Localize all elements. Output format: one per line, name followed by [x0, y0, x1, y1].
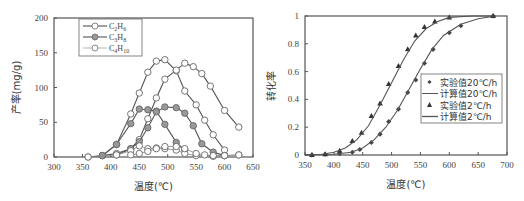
data-point: [236, 124, 242, 130]
legend-label: 实验值2℃/h: [440, 100, 492, 111]
y-axis-label: 转化率: [265, 71, 277, 101]
data-point: [162, 104, 168, 110]
legend-marker: [92, 34, 98, 40]
figure-canvas: 300350400450500550600650050100150200温度(℃…: [0, 0, 524, 201]
data-point: [173, 104, 179, 110]
y-tick-label: 200: [35, 13, 49, 23]
y-tick-label: 50: [39, 117, 49, 127]
data-point: [162, 121, 168, 127]
y-tick-label: 0.6: [288, 67, 300, 77]
data-point: [162, 76, 168, 82]
data-point: [145, 107, 151, 113]
y-tick-label: 1: [295, 11, 300, 21]
y-tick-label: 150: [35, 48, 49, 58]
x-axis-label: 温度(℃): [386, 178, 425, 190]
y-tick-label: 0: [295, 150, 300, 160]
data-point: [113, 152, 119, 158]
x-tick-label: 350: [76, 162, 90, 172]
x-tick-label: 300: [47, 162, 61, 172]
data-point: [190, 63, 196, 69]
legend: C2H6C3H8C4H10: [79, 19, 142, 56]
data-point: [136, 143, 142, 149]
data-point: [201, 152, 207, 158]
x-tick-label: 550: [414, 160, 428, 170]
x-tick-label: 450: [133, 162, 147, 172]
data-point: [199, 70, 205, 76]
x-tick-label: 500: [385, 160, 399, 170]
legend-marker: [92, 45, 98, 51]
y-tick-label: 0.2: [288, 122, 299, 132]
x-tick-label: 400: [327, 160, 341, 170]
data-point: [193, 150, 199, 156]
data-point: [128, 152, 134, 158]
series-line: [102, 109, 184, 156]
chart-yield: 300350400450500550600650050100150200温度(℃…: [10, 13, 260, 192]
legend-label: 实验值20℃/h: [440, 77, 497, 88]
x-tick-label: 350: [298, 160, 312, 170]
data-point: [221, 152, 227, 158]
data-point: [210, 152, 216, 158]
x-tick-label: 400: [104, 162, 118, 172]
legend-label: 计算值2℃/h: [440, 111, 492, 122]
data-point: [199, 141, 205, 147]
x-tick-label: 500: [161, 162, 175, 172]
data-point: [128, 111, 134, 117]
data-point: [190, 123, 196, 129]
data-point: [193, 102, 199, 108]
x-tick-label: 600: [443, 160, 457, 170]
data-point: [182, 60, 188, 66]
data-point: [85, 154, 91, 160]
data-point: [236, 152, 242, 158]
x-tick-label: 650: [246, 162, 260, 172]
x-tick-label: 700: [500, 160, 514, 170]
x-tick-label: 600: [218, 162, 232, 172]
data-point: [162, 143, 168, 149]
y-tick-label: 0.8: [288, 39, 300, 49]
legend: 实验值20℃/h计算值20℃/h实验值2℃/h计算值2℃/h: [421, 74, 502, 123]
legend-marker: [92, 23, 98, 29]
data-point: [350, 138, 356, 143]
x-tick-label: 650: [471, 160, 485, 170]
y-axis-label: 产率(mg/g): [10, 61, 22, 115]
data-point: [221, 107, 227, 113]
x-tick-label: 550: [189, 162, 203, 172]
y-tick-label: 0: [44, 152, 49, 162]
data-point: [182, 88, 188, 94]
data-point: [145, 69, 151, 75]
data-point: [136, 90, 142, 96]
data-point: [173, 143, 179, 149]
data-point: [153, 109, 159, 115]
data-point: [153, 145, 159, 151]
chart-conversion: 35040045050055060065070000.20.40.60.81温度…: [265, 11, 514, 190]
data-point: [162, 57, 168, 63]
data-point: [153, 95, 159, 101]
y-tick-label: 0.4: [288, 94, 300, 104]
data-point: [413, 32, 419, 37]
data-point: [173, 67, 179, 73]
data-point: [153, 58, 159, 64]
data-point: [145, 116, 151, 122]
data-point: [113, 141, 119, 147]
data-point: [136, 106, 142, 112]
data-point: [145, 125, 151, 131]
x-axis-label: 温度(℃): [134, 180, 173, 192]
data-point: [182, 145, 188, 151]
legend-label: 计算值20℃/h: [440, 88, 497, 99]
data-point: [182, 110, 188, 116]
data-point: [207, 83, 213, 89]
data-point: [210, 132, 216, 138]
data-point: [145, 148, 151, 154]
y-tick-label: 100: [35, 83, 49, 93]
data-point: [128, 120, 134, 126]
x-tick-label: 450: [356, 160, 370, 170]
data-point: [136, 150, 142, 156]
data-point: [201, 117, 207, 123]
